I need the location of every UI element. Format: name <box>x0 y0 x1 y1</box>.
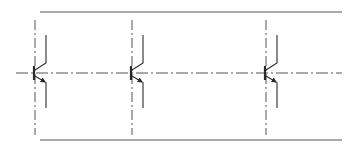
collector-lead <box>266 35 277 70</box>
emitter-arrow <box>35 76 45 82</box>
emitter-arrow <box>266 76 276 82</box>
transistor-q1 <box>34 20 46 135</box>
transistor-group <box>34 20 277 135</box>
collector-lead <box>132 35 143 70</box>
collector-lead <box>35 35 46 70</box>
transistor-q2 <box>131 20 143 135</box>
schematic-drawing <box>0 0 354 153</box>
power-rails <box>40 12 342 140</box>
transistor-q3 <box>265 20 277 135</box>
circuit-diagram <box>0 0 354 153</box>
emitter-arrow <box>132 76 142 82</box>
